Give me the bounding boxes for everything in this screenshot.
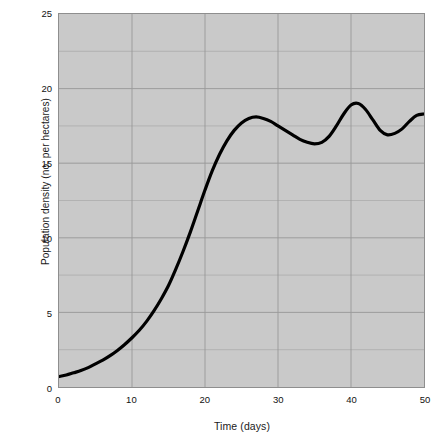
y-tick-label: 20	[6, 83, 52, 94]
x-tick-label: 30	[258, 394, 298, 405]
population-density-chart: Population density (no. per hectares) 05…	[0, 0, 438, 441]
y-tick-label: 10	[6, 233, 52, 244]
y-tick-label: 15	[6, 158, 52, 169]
data-line-population-density	[59, 14, 424, 387]
x-tick-label: 40	[332, 394, 372, 405]
x-tick-label: 10	[111, 394, 151, 405]
x-axis-tick-labels: 01020304050	[0, 394, 438, 412]
x-axis-title: Time (days)	[58, 420, 426, 432]
x-tick-label: 20	[185, 394, 225, 405]
x-tick-label: 0	[38, 394, 78, 405]
y-tick-label: 0	[6, 383, 52, 394]
plot-area	[58, 13, 425, 388]
y-tick-label: 5	[6, 308, 52, 319]
x-tick-label: 50	[405, 394, 438, 405]
y-tick-label: 25	[6, 8, 52, 19]
y-axis-tick-labels: 0510152025	[0, 0, 52, 441]
